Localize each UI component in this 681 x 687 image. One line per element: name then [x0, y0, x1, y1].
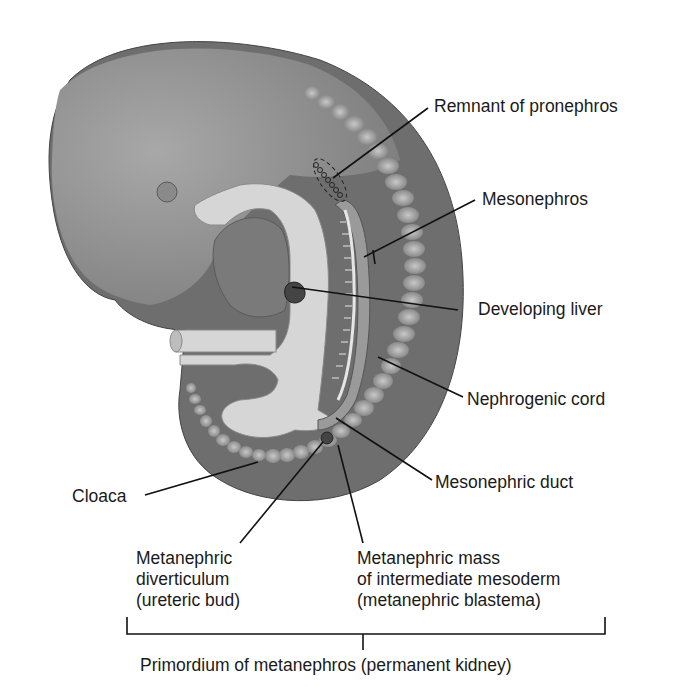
label-cloaca: Cloaca	[72, 486, 126, 507]
label-nephrogenic-cord: Nephrogenic cord	[467, 389, 605, 410]
label-mesonephros: Mesonephros	[482, 189, 588, 210]
label-primordium-metanephros: Primordium of metanephros (permanent kid…	[140, 655, 512, 676]
label-metanephric-mass: Metanephric mass of intermediate mesoder…	[357, 548, 560, 611]
label-mesonephric-duct: Mesonephric duct	[435, 472, 573, 493]
label-metanephric-diverticulum: Metanephric diverticulum (ureteric bud)	[136, 548, 240, 611]
label-remnant-pronephros: Remnant of pronephros	[434, 96, 618, 117]
label-developing-liver: Developing liver	[478, 299, 603, 320]
